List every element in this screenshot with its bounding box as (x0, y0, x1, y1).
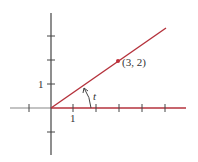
point-label: (3, 2) (122, 56, 146, 69)
angle-label: t (93, 90, 97, 102)
point-marker (116, 59, 120, 63)
coordinate-diagram: (3, 2) t 1 1 (0, 0, 198, 162)
y-tick-label: 1 (38, 78, 44, 90)
x-tick-label: 1 (70, 112, 76, 124)
terminal-ray (51, 28, 166, 108)
